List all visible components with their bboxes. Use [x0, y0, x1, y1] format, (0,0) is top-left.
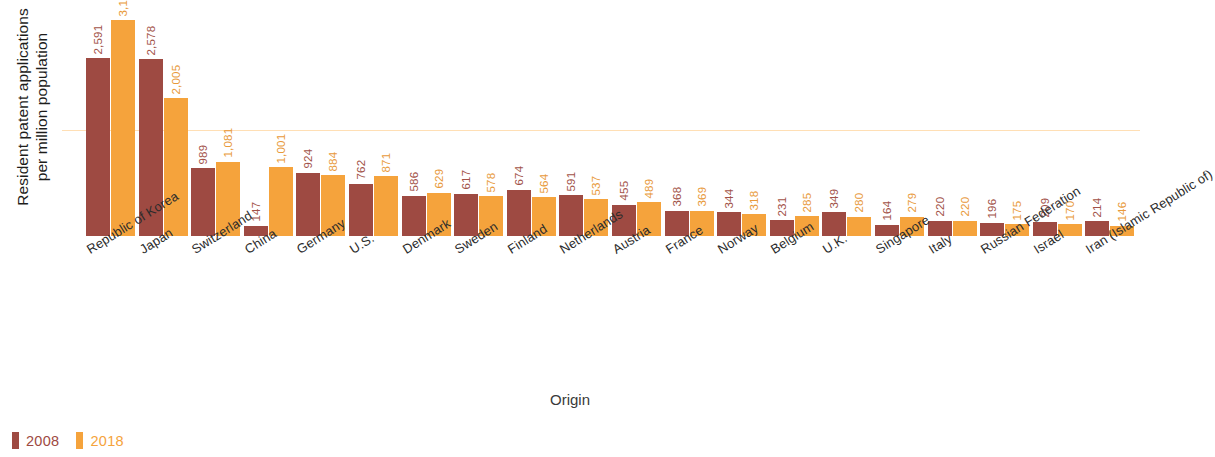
bar-value-label: 280: [854, 193, 866, 213]
bar-2018: [374, 176, 398, 236]
bar-group: 762871: [349, 2, 401, 236]
bar-value-label: 564: [538, 174, 550, 194]
legend-item-2008[interactable]: 2008: [12, 432, 59, 449]
bar-value-label: 674: [513, 166, 525, 186]
bar-value-label: 1,001: [275, 134, 287, 164]
bar-value-label: 489: [644, 179, 656, 199]
bar-value-label: 617: [461, 170, 473, 190]
y-axis-title: Resident patent applications per million…: [13, 0, 51, 225]
bar-value-label: 214: [1092, 198, 1104, 218]
bar-2018: [953, 221, 977, 236]
bar-pair: 368369: [665, 2, 717, 236]
bar-value-label: 989: [198, 144, 210, 164]
bar-value-label: 344: [724, 189, 736, 209]
bar-value-label: 369: [696, 187, 708, 207]
bar-value-label: 629: [433, 169, 445, 189]
bar-pair: 674564: [507, 2, 559, 236]
bar-2008: [349, 184, 373, 236]
bar-2018: [269, 167, 293, 236]
bar-value-label: 279: [907, 193, 919, 213]
bar-2008: [191, 168, 215, 236]
bar-value-label: 2,005: [170, 65, 182, 95]
bar-pair: 924884: [296, 2, 348, 236]
bar-group: 9891,081: [191, 2, 243, 236]
bar-value-label: 1,081: [223, 128, 235, 158]
bar-group: 591537: [559, 2, 611, 236]
bar-pair: 220220: [928, 2, 980, 236]
bar-2008: [86, 58, 110, 236]
bar-value-label: 231: [776, 196, 788, 216]
bar-group: 586629: [402, 2, 454, 236]
bar-pair: 762871: [349, 2, 401, 236]
bar-2018: [164, 98, 188, 236]
y-axis-title-wrap: Resident patent applications per million…: [0, 0, 62, 238]
legend-label: 2008: [26, 433, 59, 449]
bar-group: 164279: [875, 2, 927, 236]
bar-value-label: 762: [356, 160, 368, 180]
bar-group: 674564: [507, 2, 559, 236]
legend: 20082018: [12, 432, 124, 449]
bar-value-label: 871: [381, 152, 393, 172]
bar-pair: 617578: [454, 2, 506, 236]
bar-group: 196175: [980, 2, 1032, 236]
bar-value-label: 884: [328, 152, 340, 172]
bar-group: 349280: [822, 2, 874, 236]
bar-value-label: 537: [591, 175, 603, 195]
bar-2008: [296, 173, 320, 236]
bar-value-label: 318: [749, 190, 761, 210]
bar-pair: 586629: [402, 2, 454, 236]
bar-group: 2,5913,148: [86, 2, 138, 236]
legend-item-2018[interactable]: 2018: [76, 432, 123, 449]
bar-group: 220220: [928, 2, 980, 236]
bar-pair: 591537: [559, 2, 611, 236]
bar-group: 214146: [1085, 2, 1137, 236]
legend-swatch-icon: [76, 432, 83, 449]
bar-group: 344318: [717, 2, 769, 236]
legend-swatch-icon: [12, 432, 19, 449]
bar-value-label: 578: [486, 173, 498, 193]
bar-pair: 231285: [770, 2, 822, 236]
bar-value-label: 164: [882, 201, 894, 221]
bar-value-label: 586: [408, 172, 420, 192]
bar-value-label: 2,591: [93, 24, 105, 54]
bar-pair: 214146: [1085, 2, 1137, 236]
bar-value-label: 285: [801, 193, 813, 213]
bar-pair: 455489: [612, 2, 664, 236]
bar-pair: 164279: [875, 2, 927, 236]
bar-value-label: 2,578: [145, 25, 157, 55]
bar-group: 1471,001: [244, 2, 296, 236]
bar-pair: 1471,001: [244, 2, 296, 236]
bar-pair: 349280: [822, 2, 874, 236]
bar-2018: [111, 20, 135, 236]
plot-area: 2,5913,1482,5782,0059891,0811471,0019248…: [62, 0, 1140, 238]
bar-group: 368369: [665, 2, 717, 236]
bar-group: 617578: [454, 2, 506, 236]
bar-value-label: 3,148: [118, 0, 130, 16]
bar-group: 924884: [296, 2, 348, 236]
x-axis-title: Origin: [0, 391, 1140, 408]
bar-value-label: 591: [566, 172, 578, 192]
bar-pair: 2,5913,148: [86, 2, 138, 236]
bar-group: 231285: [770, 2, 822, 236]
bar-value-label: 368: [671, 187, 683, 207]
bar-value-label: 455: [619, 181, 631, 201]
bar-value-label: 220: [959, 197, 971, 217]
bar-2018: [847, 217, 871, 236]
bar-value-label: 220: [934, 197, 946, 217]
bar-value-label: 924: [303, 149, 315, 169]
bar-value-label: 196: [987, 199, 999, 219]
bar-group: 455489: [612, 2, 664, 236]
bar-pair: 344318: [717, 2, 769, 236]
bar-pair: 196175: [980, 2, 1032, 236]
legend-label: 2018: [90, 433, 123, 449]
bar-value-label: 349: [829, 188, 841, 208]
bar-pair: 9891,081: [191, 2, 243, 236]
